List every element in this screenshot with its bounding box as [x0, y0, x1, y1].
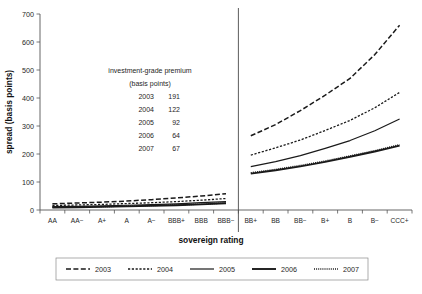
- y-tick-label: 0: [30, 206, 34, 215]
- legend-label-2007: 2007: [343, 265, 359, 274]
- legend-items: 20032004200520062007: [66, 265, 359, 274]
- y-tick-label: 300: [22, 122, 34, 131]
- legend-label-2006: 2006: [281, 265, 297, 274]
- y-tick-label: 100: [22, 178, 34, 187]
- x-tick-label: BB+: [244, 217, 257, 224]
- x-tick-label: CCC+: [391, 217, 409, 224]
- chart-figure: spread (basis points) 010020030040050060…: [0, 0, 422, 294]
- annotation-row-value: 122: [168, 106, 180, 113]
- y-tick-label: 400: [22, 94, 34, 103]
- y-axis-ticks: 0100200300400500600700: [22, 10, 40, 215]
- x-tick-label: B−: [371, 217, 379, 224]
- axis-lines: [40, 14, 412, 210]
- investment-grade-premium-annotation: investment-grade premium(basis points)20…: [108, 67, 191, 152]
- annotation-row-value: 67: [172, 145, 180, 152]
- x-tick-label: BB: [271, 217, 280, 224]
- x-tick-label: A−: [147, 217, 155, 224]
- x-tick-label: AA−: [71, 217, 84, 224]
- x-tick-label: AA: [48, 217, 57, 224]
- x-axis-ticks: AAAA−A+AA−BBB+BBBBBB−BB+BBBB−B+BB−CCC+: [40, 210, 412, 224]
- y-tick-label: 200: [22, 150, 34, 159]
- series-line-2004: [251, 92, 400, 155]
- annotation-row-value: 191: [168, 93, 180, 100]
- x-tick-label: A: [125, 217, 130, 224]
- y-axis-title: spread (basis points): [4, 70, 14, 154]
- series-line-2003: [251, 25, 400, 136]
- x-tick-label: B+: [321, 217, 329, 224]
- annotation-row-year: 2004: [138, 106, 154, 113]
- legend-label-2004: 2004: [157, 265, 173, 274]
- legend-label-2005: 2005: [219, 265, 235, 274]
- annotation-row-value: 64: [172, 132, 180, 139]
- spread-vs-sovereign-rating-chart: spread (basis points) 010020030040050060…: [0, 0, 422, 294]
- x-tick-label: BBB+: [168, 217, 185, 224]
- annotation-row-value: 92: [172, 119, 180, 126]
- y-tick-label: 500: [22, 66, 34, 75]
- x-tick-label: B: [348, 217, 353, 224]
- annotation-row-year: 2006: [138, 132, 154, 139]
- y-tick-label: 600: [22, 38, 34, 47]
- annotation-row-year: 2005: [138, 119, 154, 126]
- legend: 20032004200520062007: [56, 258, 368, 280]
- x-axis-title: sovereign rating: [178, 235, 243, 245]
- series-lines: [52, 25, 399, 207]
- y-tick-label: 700: [22, 10, 34, 19]
- annotation-row-year: 2003: [138, 93, 154, 100]
- annotation-title: investment-grade premium: [108, 67, 191, 75]
- annotation-row-year: 2007: [138, 145, 154, 152]
- x-tick-label: A+: [98, 217, 106, 224]
- x-tick-label: BB−: [294, 217, 307, 224]
- legend-label-2003: 2003: [95, 265, 111, 274]
- annotation-subtitle: (basis points): [129, 80, 171, 88]
- x-tick-label: BBB−: [217, 217, 234, 224]
- x-tick-label: BBB: [195, 217, 209, 224]
